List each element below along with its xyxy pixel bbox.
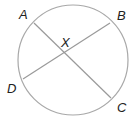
circle [18, 5, 128, 115]
chord-bd [23, 23, 110, 79]
label-x: X [60, 35, 71, 50]
chord-ac [34, 23, 111, 98]
label-c: C [117, 100, 127, 115]
circle-chords-diagram: A B X D C [0, 0, 134, 121]
label-d: D [7, 81, 16, 96]
label-a: A [18, 7, 28, 22]
label-b: B [117, 8, 126, 23]
